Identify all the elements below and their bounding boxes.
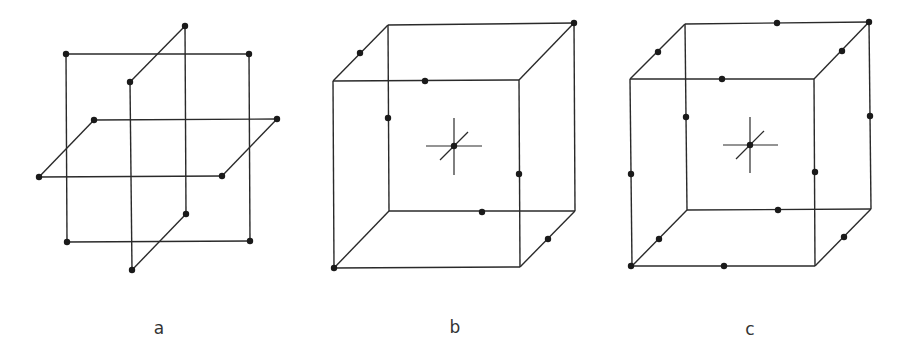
lattice-point [656,236,662,242]
lattice-point [63,51,69,57]
lattice-point [247,238,253,244]
lattice-point [719,76,725,82]
lattice-point [628,263,634,269]
lattice-point [812,169,818,175]
lattice-point [422,78,428,84]
lattice-point [721,263,727,269]
edge-line [519,23,574,80]
lattice-point [839,48,845,54]
edge-line [574,23,575,211]
lattice-point [385,115,391,121]
edge-line [39,176,222,177]
lattice-point [841,234,847,240]
lattice-point [775,207,781,213]
edge-line [334,211,389,268]
lattice-point [183,211,189,217]
lattice-point [64,239,70,245]
lattice-point [774,20,780,26]
figure-c-cube-all-edge-midpoints [628,19,873,269]
lattice-point [357,50,363,56]
edge-line [94,119,277,120]
lattice-point [182,23,188,29]
lattice-point [867,113,873,119]
figure-b-label: b [450,319,461,336]
lattice-point [127,79,133,85]
lattice-point [545,236,551,242]
edge-line [334,267,520,268]
lattice-point [129,267,135,273]
lattice-point [36,174,42,180]
lattice-point [246,51,252,57]
lattice-point [655,49,661,55]
edge-line [333,81,334,268]
lattice-point [219,173,225,179]
figure-c-label: c [745,321,754,338]
lattice-point [628,171,634,177]
lattice-point [331,265,337,271]
lattice-point [451,143,457,149]
lattice-point [516,171,522,177]
figure-a-intersecting-planes [36,23,280,273]
figure-b-cube-center-edge-sites [331,20,577,271]
lattice-point [747,142,753,148]
lattice-point [91,117,97,123]
lattice-point [866,19,872,25]
diagram-canvas [0,0,905,356]
lattice-point [683,114,689,120]
figure-a-label: a [154,320,164,337]
lattice-point [274,116,280,122]
lattice-point [571,20,577,26]
edge-line [388,23,574,25]
lattice-point [479,209,485,215]
